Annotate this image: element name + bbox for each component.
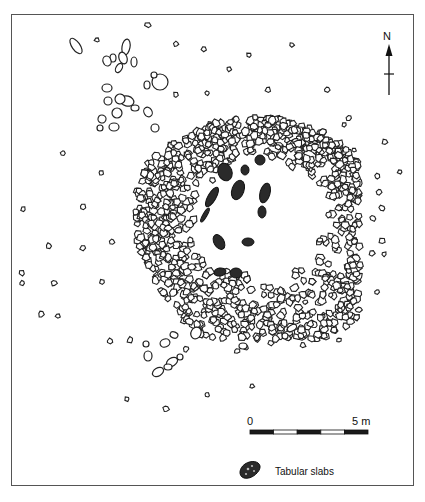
north-label: N (383, 30, 391, 42)
scale-bar (250, 430, 368, 434)
scale-start-label: 0 (247, 415, 253, 427)
north-arrow-icon (384, 44, 394, 95)
scale-end-label: 5 m (352, 415, 370, 427)
tabular-slabs-central (199, 155, 272, 278)
tabular-slab-legend-icon (240, 462, 260, 479)
stone-ring-stones (133, 115, 363, 342)
legend-label-tabular-slabs: Tabular slabs (275, 466, 334, 477)
